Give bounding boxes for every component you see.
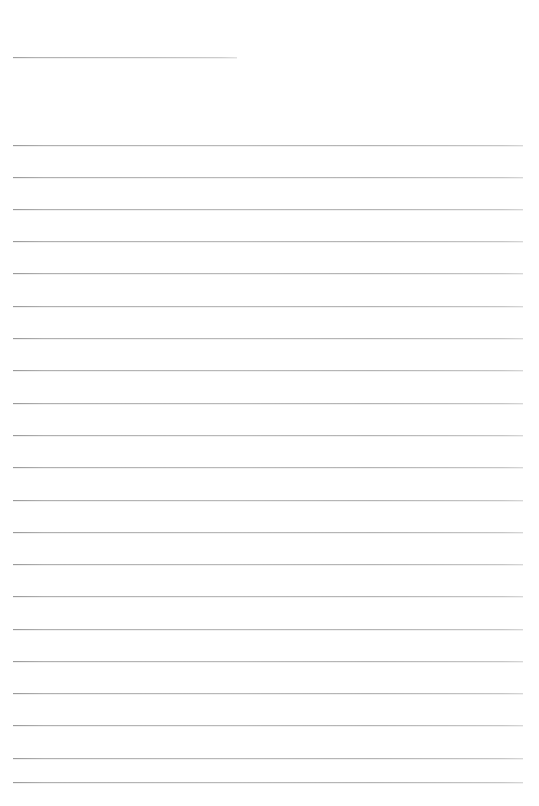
- writing-line[interactable]: [13, 403, 523, 404]
- writing-line[interactable]: [13, 209, 523, 210]
- writing-line[interactable]: [13, 467, 523, 468]
- writing-line[interactable]: [13, 758, 523, 759]
- writing-line[interactable]: [13, 370, 523, 371]
- writing-line[interactable]: [13, 273, 523, 274]
- writing-line[interactable]: [13, 500, 523, 501]
- writing-line[interactable]: [13, 782, 523, 783]
- writing-line[interactable]: [13, 435, 523, 436]
- writing-line[interactable]: [13, 693, 523, 694]
- writing-line[interactable]: [13, 177, 523, 178]
- writing-line[interactable]: [13, 596, 523, 597]
- writing-area[interactable]: [0, 0, 539, 806]
- writing-line[interactable]: [13, 725, 523, 726]
- writing-line[interactable]: [13, 629, 523, 630]
- writing-line[interactable]: [13, 338, 523, 339]
- writing-line[interactable]: [13, 564, 523, 565]
- writing-line[interactable]: [13, 532, 523, 533]
- writing-line[interactable]: [13, 145, 523, 146]
- writing-line[interactable]: [13, 661, 523, 662]
- writing-line[interactable]: [13, 241, 523, 242]
- writing-line[interactable]: [13, 306, 523, 307]
- ruled-page: [0, 0, 539, 806]
